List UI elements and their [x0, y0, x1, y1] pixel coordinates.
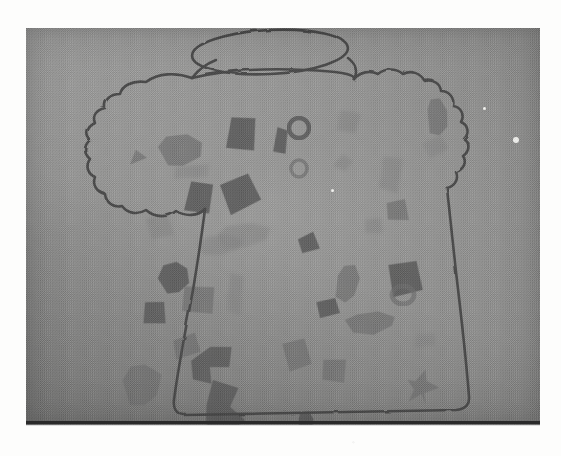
confetti-piece [379, 156, 403, 193]
confetti-piece [403, 366, 442, 407]
confetti-piece [316, 298, 340, 319]
confetti-piece [282, 338, 312, 372]
confetti-piece [379, 192, 418, 231]
page-root [0, 0, 561, 456]
confetti-piece [344, 310, 396, 338]
confetti-piece [320, 356, 348, 384]
confetti-piece [226, 114, 260, 153]
confetti-piece [126, 147, 147, 165]
photograph-plate [26, 28, 540, 425]
confetti-layer [121, 98, 450, 425]
confetti-piece [220, 172, 263, 215]
confetti-piece [427, 98, 449, 136]
confetti-piece [157, 132, 205, 169]
confetti-piece [331, 152, 355, 173]
childrens-drawing [26, 28, 540, 425]
confetti-piece [172, 332, 202, 360]
confetti-piece [121, 363, 165, 407]
confetti-piece [289, 118, 309, 138]
confetti-piece [173, 163, 210, 180]
confetti-piece [180, 282, 217, 316]
confetti-piece [364, 216, 384, 234]
ruffle-right-edge [354, 70, 468, 189]
confetti-piece [200, 376, 247, 425]
confetti-piece [413, 333, 437, 349]
confetti-piece [422, 134, 450, 159]
confetti-piece [184, 179, 216, 216]
confetti-piece [291, 160, 307, 177]
confetti-piece [142, 299, 168, 326]
confetti-piece [226, 273, 244, 316]
jar-outline [85, 28, 469, 415]
confetti-piece [334, 263, 361, 304]
confetti-piece [335, 108, 361, 136]
confetti-piece [297, 231, 320, 253]
caption-strip [26, 424, 540, 426]
confetti-piece [273, 127, 288, 154]
